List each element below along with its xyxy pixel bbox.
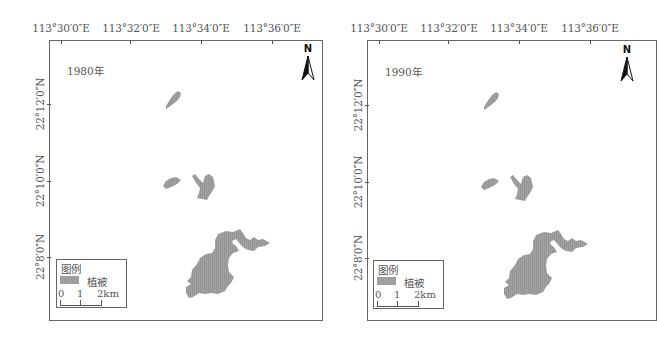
north-arrow-icon	[619, 56, 635, 86]
vegetation-swatch	[60, 276, 79, 284]
map-legend: 图例 植被 0 1 2km	[56, 259, 127, 308]
scale-label: 1	[77, 288, 83, 299]
scale-tick	[397, 301, 398, 306]
scale-tick	[418, 301, 419, 306]
north-arrow: N	[619, 44, 635, 84]
legend-item-label: 植被	[404, 275, 424, 290]
scale-bar	[60, 305, 102, 306]
scale-tick	[101, 300, 102, 305]
map-legend: 图例 植被 0 1 2km	[373, 260, 444, 309]
north-arrow: N	[300, 43, 316, 83]
north-label: N	[300, 43, 316, 54]
legend-title: 图例	[378, 262, 398, 277]
vegetation-islands	[0, 0, 320, 347]
scale-label: 0	[375, 289, 381, 300]
scale-tick	[60, 300, 61, 305]
scale-label: 0	[58, 288, 64, 299]
scale-tick	[377, 301, 378, 306]
scale-label: 2km	[97, 288, 119, 299]
legend-title: 图例	[61, 261, 81, 276]
vegetation-islands	[318, 0, 638, 347]
north-label: N	[619, 44, 635, 55]
scale-label: 1	[394, 289, 400, 300]
year-label: 1990年	[385, 64, 422, 79]
year-label: 1980年	[67, 63, 104, 78]
map-panel-1980: 113°30′0″E 113°32′0″E 113°34′0″E 113°36′…	[0, 0, 320, 347]
north-arrow-icon	[300, 55, 316, 85]
scale-label: 2km	[414, 289, 436, 300]
map-panel-1990: 113°30′0″E 113°32′0″E 113°34′0″E 113°36′…	[318, 0, 638, 347]
legend-item-label: 植被	[87, 274, 107, 289]
scale-bar	[377, 306, 419, 307]
vegetation-swatch	[377, 277, 396, 285]
scale-tick	[80, 300, 81, 305]
